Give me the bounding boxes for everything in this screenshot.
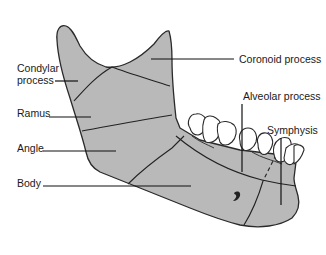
tooth-molar-1 — [217, 121, 236, 145]
label-alveolar: Alveolar process — [243, 90, 321, 102]
label-condylar-line1: Condylar — [17, 62, 59, 74]
label-body: Body — [17, 177, 41, 189]
label-condylar-line2: process — [17, 74, 59, 86]
tooth-incisor-central — [294, 145, 304, 164]
label-ramus: Ramus — [17, 107, 50, 119]
tooth-premolar-1 — [257, 133, 272, 155]
label-angle: Angle — [17, 142, 44, 154]
label-condylar: Condylar process — [17, 62, 59, 86]
label-symphysis: Symphysis — [267, 124, 318, 136]
label-coronoid: Coronoid process — [239, 53, 321, 65]
